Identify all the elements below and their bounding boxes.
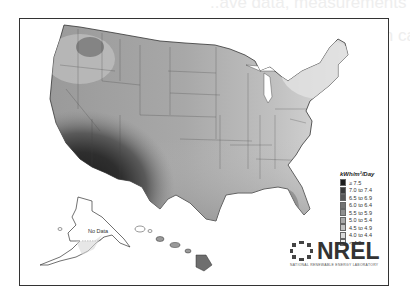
legend-item: 7.0 to 7.4 [340, 187, 389, 195]
nrel-logo-subtitle: NATIONAL RENEWABLE ENERGY LABORATORY [290, 263, 389, 267]
legend-swatch [340, 224, 346, 231]
legend-item: 6.5 to 6.9 [340, 194, 389, 202]
solar-map-figure: No Data kWh/m²/Day ≥ 7.57.0 to 7.46.5 to… [19, 18, 389, 286]
legend-label: 5.0 to 5.4 [349, 217, 372, 223]
legend-label: 7.0 to 7.4 [349, 187, 372, 193]
legend-swatch [340, 187, 346, 194]
background-text-line: ..ave data, measurements of new much [210, 0, 410, 19]
map-legend: kWh/m²/Day ≥ 7.57.0 to 7.46.5 to 6.96.0 … [340, 171, 389, 247]
nrel-logo-text: NREL [317, 241, 380, 261]
legend-item: 5.5 to 5.9 [340, 209, 389, 217]
legend-swatch [340, 179, 346, 186]
legend-swatch [340, 194, 346, 201]
nrel-logo: NREL NATIONAL RENEWABLE ENERGY LABORATOR… [290, 241, 389, 267]
legend-item: 5.0 to 5.4 [340, 217, 389, 225]
legend-swatch [340, 217, 346, 224]
no-data-label: No Data [88, 228, 108, 234]
legend-label: 4.5 to 4.9 [349, 225, 372, 231]
legend-title: kWh/m²/Day [340, 171, 389, 177]
nrel-logo-mark-icon [290, 241, 314, 261]
legend-item: 4.5 to 4.9 [340, 224, 389, 232]
legend-label: 6.0 to 6.4 [349, 202, 372, 208]
legend-swatch [340, 202, 346, 209]
legend-swatch [340, 209, 346, 216]
legend-label: ≥ 7.5 [349, 180, 361, 186]
legend-item: 6.0 to 6.4 [340, 202, 389, 210]
legend-label: 5.5 to 5.9 [349, 210, 372, 216]
legend-label: 6.5 to 6.9 [349, 195, 372, 201]
legend-item: ≥ 7.5 [340, 179, 389, 187]
